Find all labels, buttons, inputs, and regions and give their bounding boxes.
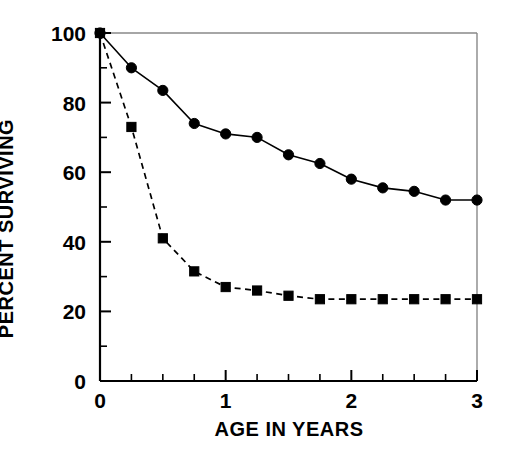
x-axis-major-ticks — [226, 370, 477, 381]
y-tick-label: 20 — [63, 300, 86, 323]
data-point-marker — [378, 295, 387, 304]
x-tick-label: 2 — [345, 389, 357, 412]
y-axis-title: PERCENT SURVIVING — [0, 0, 40, 457]
data-point-marker — [190, 267, 199, 276]
data-point-marker — [221, 129, 231, 139]
series-line — [100, 33, 477, 200]
data-point-marker — [189, 118, 199, 128]
series-line — [100, 33, 477, 299]
data-point-marker — [158, 234, 167, 243]
series-dashed-squares — [95, 28, 481, 303]
data-point-marker — [347, 295, 356, 304]
y-tick-label: 0 — [74, 370, 86, 393]
y-axis-major-ticks — [100, 33, 111, 311]
data-point-marker — [95, 28, 104, 37]
data-point-marker — [221, 282, 230, 291]
data-point-marker — [315, 295, 324, 304]
x-tick-label: 3 — [471, 389, 483, 412]
data-point-marker — [346, 174, 356, 184]
data-point-marker — [410, 295, 419, 304]
data-point-marker — [315, 158, 325, 168]
data-point-marker — [440, 195, 450, 205]
y-tick-label: 60 — [63, 161, 86, 184]
x-tick-label: 1 — [220, 389, 232, 412]
x-axis-title: AGE IN YEARS — [100, 418, 478, 441]
data-point-marker — [283, 150, 293, 160]
data-point-marker — [441, 295, 450, 304]
series-solid-circles — [95, 28, 482, 205]
data-point-marker — [472, 195, 482, 205]
data-point-marker — [158, 85, 168, 95]
survival-chart: 020406080100 0123 PERCENT SURVIVING AGE … — [0, 0, 518, 457]
data-point-marker — [127, 122, 136, 131]
data-point-marker — [409, 186, 419, 196]
data-point-marker — [472, 295, 481, 304]
data-point-marker — [284, 291, 293, 300]
x-tick-label: 0 — [94, 389, 106, 412]
y-tick-label: 100 — [51, 22, 86, 45]
data-point-marker — [126, 63, 136, 73]
x-axis-tick-labels: 0123 — [94, 389, 483, 412]
y-tick-label: 80 — [63, 92, 86, 115]
y-tick-label: 40 — [63, 231, 86, 254]
data-series-layer — [95, 28, 482, 304]
data-point-marker — [252, 132, 262, 142]
data-point-marker — [378, 183, 388, 193]
data-point-marker — [252, 286, 261, 295]
y-axis-tick-labels: 020406080100 — [51, 22, 86, 393]
plot-canvas: 020406080100 0123 — [0, 0, 518, 457]
